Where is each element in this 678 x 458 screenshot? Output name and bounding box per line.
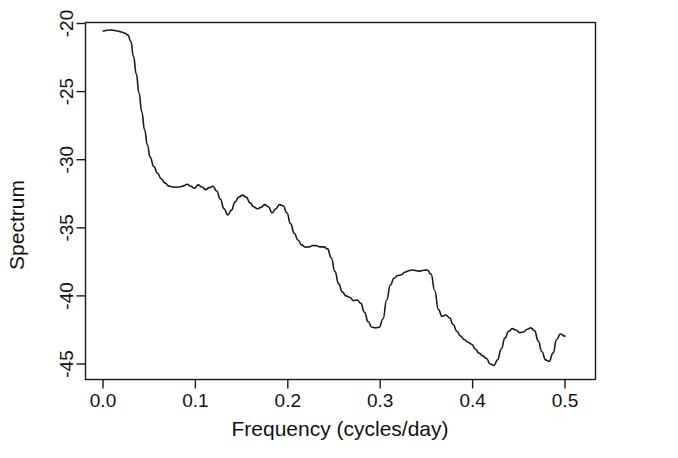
- chart-page: -20-25-30-35-40-45 0.00.10.20.30.40.5 Sp…: [0, 0, 678, 458]
- x-axis-title: Frequency (cycles/day): [231, 417, 448, 440]
- x-tick-label: 0.1: [182, 390, 208, 411]
- y-tick-label: -20: [56, 10, 77, 37]
- x-tick-label: 0.3: [367, 390, 393, 411]
- x-tick-label: 0.2: [275, 390, 301, 411]
- x-tick-label: 0.4: [459, 390, 486, 411]
- y-tick-label: -45: [56, 350, 77, 377]
- y-tick-label: -30: [56, 146, 77, 173]
- x-tick-label: 0.5: [552, 390, 578, 411]
- x-tick-label: 0.0: [90, 390, 116, 411]
- y-tick-label: -25: [56, 78, 77, 105]
- y-axis-title: Spectrum: [5, 180, 28, 270]
- y-tick-label: -35: [56, 214, 77, 241]
- y-tick-label: -40: [56, 282, 77, 309]
- spectrum-plot: -20-25-30-35-40-45 0.00.10.20.30.40.5 Sp…: [0, 0, 678, 458]
